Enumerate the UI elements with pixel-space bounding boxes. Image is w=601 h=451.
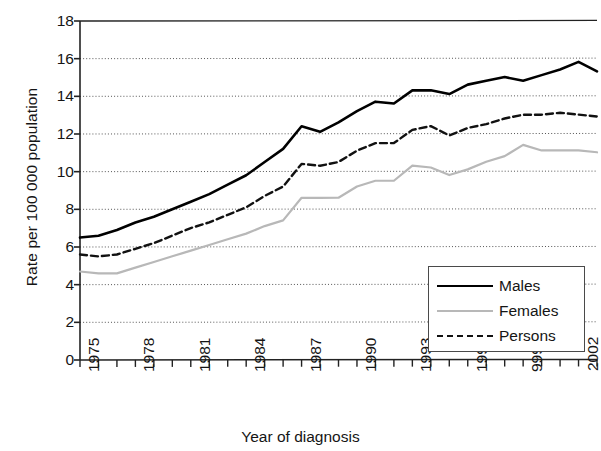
x-tick-label: 1984 — [252, 337, 268, 371]
legend-label-females: Females — [499, 303, 558, 319]
legend-item-persons: Persons — [429, 323, 584, 348]
legend-label-persons: Persons — [499, 328, 556, 344]
legend-label-males: Males — [499, 278, 540, 294]
x-tick-label: 1981 — [197, 337, 213, 371]
legend-item-males: Males — [429, 273, 584, 298]
x-tick-label: 1990 — [363, 337, 379, 371]
x-tick-label: 1978 — [141, 337, 157, 371]
x-axis-title: Year of diagnosis — [0, 428, 601, 446]
legend-swatch-persons-icon — [437, 330, 493, 342]
legend-item-females: Females — [429, 298, 584, 323]
x-tick-label: 1987 — [308, 337, 324, 371]
line-chart: Rate per 100 000 population 181614121086… — [0, 0, 601, 451]
legend-swatch-males-icon — [437, 280, 493, 292]
chart-legend: Males Females Persons — [428, 266, 585, 352]
x-tick-label: 1975 — [86, 338, 102, 372]
legend-swatch-females-icon — [437, 305, 493, 317]
x-tick-label: 2002 — [585, 337, 601, 371]
x-axis-tick-labels: 197519781981198419871990199319969992002 — [0, 0, 601, 451]
